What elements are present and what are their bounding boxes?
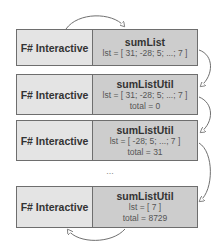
function-cell: sumListUtil lst = [ -28; 5; ...; 7 ] tot… xyxy=(93,121,197,160)
function-name: sumList xyxy=(125,36,165,48)
stack-frame-1: F# Interactive sumList lst = [ 31; -28; … xyxy=(16,29,198,66)
caller-cell: F# Interactive xyxy=(17,30,93,65)
function-name: sumListUtil xyxy=(116,78,173,90)
function-cell: sumList lst = [ 31; -28; 5; ...; 7 ] xyxy=(93,30,197,65)
arrow-call-frame3 xyxy=(199,97,211,132)
stack-frame-3: F# Interactive sumListUtil lst = [ -28; … xyxy=(16,120,198,161)
function-cell: sumListUtil lst = [ 7 ] total = 8729 xyxy=(93,187,197,227)
stack-frame-2: F# Interactive sumListUtil lst = [ 31; -… xyxy=(16,74,198,115)
arg-total: total = 0 xyxy=(130,101,160,112)
arg-total: total = 8729 xyxy=(123,213,168,224)
arrow-call-frame4 xyxy=(199,143,210,201)
arg-lst: lst = [ 31; -28; 5; ...; 7 ] xyxy=(103,48,188,59)
function-name: sumListUtil xyxy=(116,190,173,202)
caller-cell: F# Interactive xyxy=(17,75,93,114)
arg-lst: lst = [ -28; 5; ...; 7 ] xyxy=(110,136,181,147)
arrow-call-sumList xyxy=(66,16,124,29)
caller-cell: F# Interactive xyxy=(17,121,93,160)
function-cell: sumListUtil lst = [ 31; -28; 5; ...; 7 ]… xyxy=(93,75,197,114)
arrow-call-frame2 xyxy=(199,50,211,86)
arg-lst: lst = [ 7 ] xyxy=(129,202,161,213)
stack-frame-4: F# Interactive sumListUtil lst = [ 7 ] t… xyxy=(16,186,198,228)
caller-cell: F# Interactive xyxy=(17,187,93,227)
ellipsis: ... xyxy=(95,166,125,176)
arrow-return-caller xyxy=(68,229,125,240)
arg-lst: lst = [ 31; -28; 5; ...; 7 ] xyxy=(103,90,188,101)
arg-total: total = 31 xyxy=(127,147,162,158)
function-name: sumListUtil xyxy=(116,124,173,136)
